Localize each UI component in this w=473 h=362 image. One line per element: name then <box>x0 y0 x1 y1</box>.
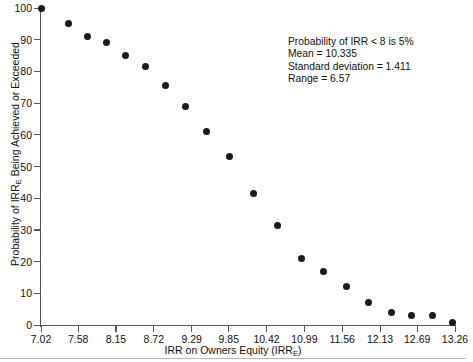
x-tick <box>78 325 79 332</box>
y-tick <box>34 293 41 294</box>
annotation-line-range: Range = 6.57 <box>288 73 414 85</box>
data-point <box>343 283 350 290</box>
data-point <box>203 128 210 135</box>
x-tick <box>115 325 116 332</box>
y-axis-title-subscript: E <box>14 179 23 184</box>
x-tick-label: 13.26 <box>432 334 473 345</box>
statistics-annotation: Probability of IRR < 8 is 5% Mean = 10.3… <box>288 36 414 86</box>
data-point <box>298 255 305 262</box>
data-point <box>84 33 91 40</box>
x-tick <box>455 325 456 332</box>
data-point <box>65 20 72 27</box>
data-point <box>38 5 45 12</box>
annotation-prob-pre: Probability of IRR <box>288 36 371 47</box>
data-point <box>226 153 233 160</box>
data-point <box>408 312 415 319</box>
data-point <box>365 299 372 306</box>
x-tick <box>380 325 381 332</box>
y-axis-title-post: Being Achieved or Exceeded <box>9 42 21 179</box>
data-point <box>103 39 110 46</box>
x-tick <box>41 325 42 332</box>
data-point <box>182 103 189 110</box>
y-tick-label: 100 <box>0 3 32 14</box>
y-tick-label: 0 <box>0 320 32 331</box>
x-tick <box>228 325 229 332</box>
x-axis-title-post: ) <box>298 344 302 356</box>
x-axis-title: IRR on Owners Equity (IRRE) <box>0 345 466 357</box>
data-point <box>122 52 129 59</box>
y-axis-title: Probability of IRRE Being Achieved or Ex… <box>10 34 22 274</box>
y-tick <box>34 103 41 104</box>
data-point <box>429 312 436 319</box>
x-tick <box>191 325 192 332</box>
x-tick <box>304 325 305 332</box>
x-tick <box>153 325 154 332</box>
annotation-line-stddev: Standard deviation = 1.411 <box>288 61 414 73</box>
y-axis-title-pre: Probability of IRR <box>9 184 21 266</box>
data-point <box>250 190 257 197</box>
y-tick <box>34 229 41 230</box>
data-point <box>274 222 281 229</box>
data-point <box>320 268 327 275</box>
x-axis-title-subscript: E <box>293 349 298 358</box>
y-tick <box>34 71 41 72</box>
x-axis-line <box>40 325 456 326</box>
annotation-line-probability: Probability of IRR < 8 is 5% <box>288 36 414 48</box>
y-tick <box>34 261 41 262</box>
x-axis-title-pre: IRR on Owners Equity (IRR <box>165 344 293 356</box>
y-tick <box>34 39 41 40</box>
y-tick <box>34 134 41 135</box>
y-tick <box>34 166 41 167</box>
y-tick <box>34 198 41 199</box>
x-tick <box>417 325 418 332</box>
x-tick <box>342 325 343 332</box>
data-point <box>162 82 169 89</box>
footer-rule <box>0 358 466 359</box>
y-tick-label: 10 <box>0 288 32 299</box>
annotation-prob-post: 8 is 5% <box>377 36 414 47</box>
data-point <box>142 63 149 70</box>
data-point <box>388 309 395 316</box>
x-tick <box>266 325 267 332</box>
annotation-line-mean: Mean = 10.335 <box>288 48 414 60</box>
